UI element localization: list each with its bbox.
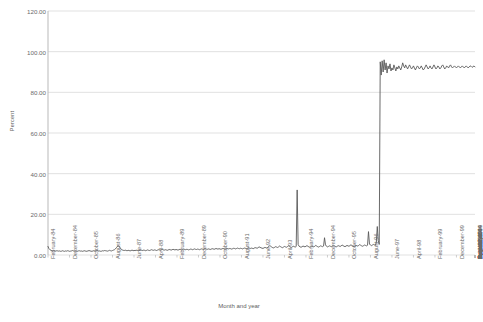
x-tick-label: October-90: [222, 231, 228, 259]
x-tick-label: February-94: [308, 229, 314, 259]
x-tick-label: August-96: [373, 234, 379, 260]
x-tick-label: February-99: [437, 229, 443, 259]
x-tick-label: October-85: [93, 231, 99, 259]
x-tick-label: June-97: [394, 239, 400, 259]
x-tick-label: April-98: [416, 240, 422, 259]
x-tick-label: February-84: [50, 229, 56, 259]
x-tick-label: December-89: [201, 225, 207, 259]
x-tick-label: June-92: [265, 239, 271, 259]
x-tick-label: August-86: [115, 234, 121, 260]
x-tick-label: October-95: [351, 231, 357, 259]
x-tick-label: December-94: [330, 225, 336, 259]
x-tick-label: April-88: [158, 240, 164, 259]
x-tick-label: June-87: [136, 239, 142, 259]
x-tick-label: October-15: [477, 231, 483, 259]
x-tick-label: August-91: [244, 234, 250, 260]
x-tick-label: April-93: [287, 240, 293, 259]
x-tick-label: December-84: [72, 225, 78, 259]
x-tick-label: December-99: [459, 225, 465, 259]
x-axis-title: Month and year: [0, 303, 478, 309]
x-tick-label: February-89: [179, 229, 185, 259]
